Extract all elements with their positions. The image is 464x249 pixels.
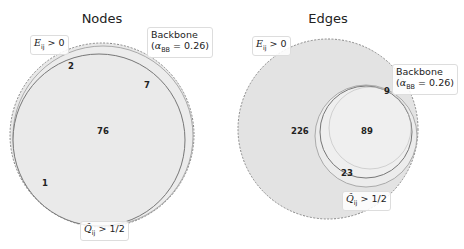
edges-label-Q: Q̂ij > 1/2 [342, 191, 391, 211]
edges-count-E-and-Q: 23 [341, 168, 353, 178]
nodes-count-backbone-only: 7 [144, 80, 150, 90]
nodes-label-E: Eij > 0 [30, 35, 69, 55]
nodes-label-Q: Q̂ij > 1/2 [80, 221, 129, 241]
nodes-count-E-and-Q: 1 [42, 178, 48, 188]
edges-venn [238, 39, 418, 219]
nodes-count-all-three: 76 [97, 126, 109, 136]
nodes-backbone-label-text: Backbone [151, 29, 198, 40]
nodes-label-backbone: Backbone(αBB = 0.26) [147, 27, 213, 58]
edges-backbone-label-text: Backbone [396, 66, 443, 77]
nodes-count-E-only: 2 [68, 61, 74, 71]
edges-count-all-three: 89 [361, 126, 373, 136]
nodes-circle-Q [13, 54, 185, 226]
nodes-title: Nodes [72, 11, 132, 26]
edges-count-backbone-only: 9 [384, 86, 390, 96]
edges-count-E-only: 226 [291, 126, 309, 136]
edges-label-backbone: Backbone(αBB = 0.26) [392, 64, 458, 95]
edges-title: Edges [298, 11, 358, 26]
venn-canvas [0, 0, 464, 249]
edges-label-E: Eij > 0 [252, 36, 291, 56]
